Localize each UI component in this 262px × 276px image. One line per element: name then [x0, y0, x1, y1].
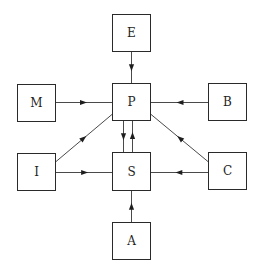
edge-A-to-S	[129, 191, 134, 223]
edge-I-to-P	[56, 114, 113, 162]
arrowhead-icon	[130, 132, 135, 139]
node-label-I: I	[34, 165, 39, 179]
node-label-C: C	[223, 164, 232, 178]
node-label-E: E	[127, 26, 136, 40]
arrowhead-icon	[129, 64, 134, 71]
node-M: M	[18, 85, 56, 122]
node-label-P: P	[127, 95, 135, 109]
arrowhead-icon	[121, 133, 126, 140]
node-E: E	[113, 15, 151, 52]
node-label-S: S	[127, 165, 135, 179]
node-S: S	[113, 153, 151, 191]
edge-B-to-P	[151, 100, 209, 105]
node-label-B: B	[223, 95, 232, 109]
edge-S-to-P	[130, 121, 135, 153]
node-C: C	[209, 153, 247, 190]
arrowhead-icon	[80, 100, 87, 105]
edge-M-to-P	[56, 100, 113, 105]
arrowhead-icon	[129, 203, 134, 210]
node-label-A: A	[126, 234, 136, 248]
diagram-canvas: E M P B I S C	[0, 0, 262, 276]
arrowhead-icon	[175, 170, 182, 175]
node-A: A	[113, 223, 151, 260]
diagram: E M P B I S C	[0, 0, 262, 276]
node-label-M: M	[30, 96, 42, 110]
edge-P-to-S	[121, 121, 126, 153]
arrowhead-icon	[177, 100, 184, 105]
edge-E-to-P	[129, 52, 134, 84]
node-B: B	[209, 84, 247, 121]
edge-C-to-P	[151, 114, 209, 162]
edge-I-to-S	[56, 170, 113, 175]
edges-layer	[56, 52, 209, 223]
node-P: P	[113, 84, 151, 121]
edge-C-to-S	[151, 170, 209, 175]
node-I: I	[18, 154, 56, 191]
arrowhead-icon	[81, 170, 88, 175]
